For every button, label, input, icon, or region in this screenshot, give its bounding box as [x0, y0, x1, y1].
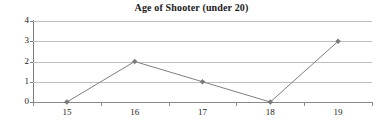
y-tick-label-0: 0 [0, 97, 29, 106]
y-tick-label-text: 1 [5, 77, 29, 86]
x-tick-mark-2 [169, 102, 170, 106]
x-tick-label-16: 16 [105, 107, 165, 118]
y-tick-label-1: 1 [0, 77, 29, 86]
data-point-17-1 [200, 79, 205, 84]
chart-container: Age of Shooter (under 20) 01234 15161718… [0, 0, 383, 127]
series-polyline [67, 41, 338, 102]
plot-area [33, 21, 372, 102]
chart-title: Age of Shooter (under 20) [0, 2, 383, 14]
x-tick-label-19: 19 [308, 107, 368, 118]
y-tick-label-text: 3 [5, 36, 29, 45]
y-tick-label-3: 3 [0, 36, 29, 45]
y-tick-label-text: 2 [5, 57, 29, 66]
x-tick-mark-3 [236, 102, 237, 106]
y-tick-label-text: 4 [5, 16, 29, 25]
x-tick-label-15: 15 [37, 107, 97, 118]
y-tick-label-4: 4 [0, 16, 29, 25]
x-tick-mark-1 [101, 102, 102, 106]
x-tick-label-17: 17 [173, 107, 233, 118]
data-series-line [33, 21, 372, 102]
data-point-15-0 [65, 100, 70, 105]
gridline-y-0 [33, 102, 372, 103]
x-tick-mark-4 [304, 102, 305, 106]
series-markers [65, 39, 341, 105]
x-tick-mark-5 [372, 102, 373, 106]
x-tick-mark-0 [33, 102, 34, 106]
data-point-16-2 [132, 59, 137, 64]
x-tick-label-18: 18 [240, 107, 300, 118]
y-tick-label-text: 0 [5, 97, 29, 106]
y-tick-label-2: 2 [0, 57, 29, 66]
